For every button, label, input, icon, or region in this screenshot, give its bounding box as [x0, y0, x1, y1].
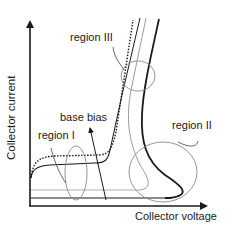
- curve-thin-dark: [110, 18, 140, 150]
- region-markers: [65, 61, 197, 202]
- curve-dotted: [31, 20, 133, 178]
- region-1-label: region I: [38, 130, 75, 141]
- region-3-leader: [113, 47, 124, 70]
- region-1-leader: [51, 148, 66, 183]
- base-bias-arrow: [90, 128, 106, 200]
- y-axis-label: Collector current: [6, 68, 18, 168]
- x-axis-label: Collector voltage: [135, 211, 217, 222]
- base-bias-label: base bias: [60, 112, 107, 123]
- curve-light-snapback: [128, 18, 148, 190]
- curve-dark-snapback: [142, 19, 183, 198]
- region-1-ellipse: [65, 146, 87, 200]
- baseline-curves: [31, 190, 165, 198]
- region-3-label: region III: [70, 32, 113, 43]
- region-2-leader: [178, 141, 198, 146]
- region-2-label: region II: [172, 120, 212, 131]
- collector-characteristic-diagram: [0, 0, 237, 234]
- region-2-ellipse: [129, 142, 197, 202]
